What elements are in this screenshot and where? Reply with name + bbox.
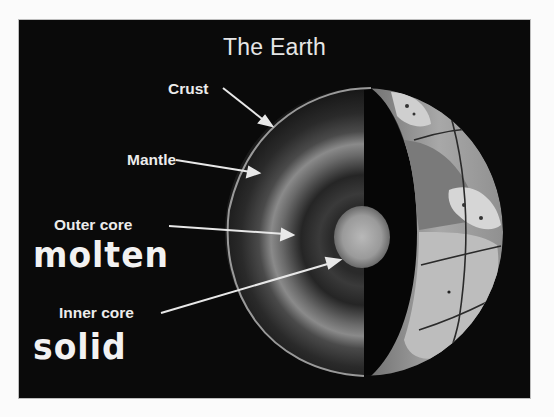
page-top-margin [0, 0, 554, 20]
earth-diagram-slide: The Earth Crust Mantle Outer core molten… [19, 20, 530, 398]
inner-core-label: Inner core [59, 304, 134, 322]
inner-core-state: solid [33, 326, 127, 367]
crust-label: Crust [168, 80, 208, 98]
globe-interior [214, 80, 519, 395]
outer-core-state: molten [33, 234, 169, 275]
diagram-title: The Earth [19, 34, 530, 61]
mantle-label: Mantle [127, 151, 176, 169]
outer-core-label: Outer core [54, 216, 132, 234]
